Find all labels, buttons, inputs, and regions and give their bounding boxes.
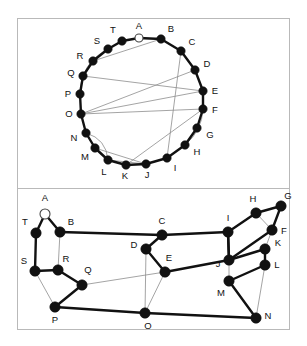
- circle-vertex-label-T: T: [110, 24, 116, 35]
- circle-vertex-label-Q: Q: [67, 67, 74, 78]
- circle-vertex-label-E: E: [212, 85, 218, 96]
- circle-vertex-label-C: C: [189, 36, 196, 47]
- planar-vertex-L[interactable]: [260, 260, 270, 270]
- planar-vertex-F[interactable]: [267, 225, 277, 235]
- planar-vertex-O[interactable]: [140, 308, 150, 318]
- circle-vertex-O[interactable]: [77, 110, 85, 118]
- planar-vertex-label-M: M: [217, 287, 225, 298]
- circle-vertex-label-D: D: [204, 58, 211, 69]
- circle-vertex-T[interactable]: [118, 37, 126, 45]
- planar-vertex-B[interactable]: [55, 227, 65, 237]
- planar-vertex-label-F: F: [281, 225, 287, 236]
- planar-vertex-I[interactable]: [223, 227, 233, 237]
- circle-vertex-label-O: O: [65, 108, 72, 119]
- circle-vertex-label-R: R: [77, 50, 84, 61]
- planar-vertex-label-R: R: [63, 253, 70, 264]
- planar-vertex-E[interactable]: [160, 267, 170, 277]
- planar-vertex-label-A: A: [42, 192, 49, 203]
- planar-vertex-A[interactable]: [40, 209, 50, 219]
- planar-vertex-label-C: C: [159, 215, 166, 226]
- planar-vertex-label-G: G: [284, 190, 291, 201]
- circle-vertex-G[interactable]: [193, 124, 201, 132]
- planar-vertex-label-K: K: [275, 237, 282, 248]
- circle-vertex-B[interactable]: [157, 35, 165, 43]
- planar-vertex-label-S: S: [21, 255, 27, 266]
- circle-vertex-K[interactable]: [122, 161, 130, 169]
- planar-vertex-label-D: D: [131, 239, 138, 250]
- planar-vertex-D[interactable]: [141, 244, 151, 254]
- circle-vertex-label-M: M: [81, 151, 89, 162]
- circle-vertex-label-N: N: [71, 132, 78, 143]
- graph-figure-svg: ABCDEFGHIJKLMNOPQRST ABCDEFGHIJKLMNOPQRS…: [0, 0, 307, 346]
- planar-vertex-M[interactable]: [224, 276, 234, 286]
- circle-vertex-label-A: A: [136, 20, 143, 31]
- planar-vertex-label-J: J: [216, 258, 221, 269]
- figure-root: ABCDEFGHIJKLMNOPQRST ABCDEFGHIJKLMNOPQRS…: [0, 0, 307, 346]
- planar-vertex-label-I: I: [227, 212, 230, 223]
- circle-vertex-I[interactable]: [163, 154, 171, 162]
- circle-vertex-M[interactable]: [91, 144, 99, 152]
- circle-vertex-label-H: H: [194, 146, 201, 157]
- planar-vertex-J[interactable]: [224, 255, 234, 265]
- planar-vertex-label-E: E: [166, 252, 172, 263]
- circle-vertex-N[interactable]: [82, 129, 90, 137]
- circle-vertex-J[interactable]: [142, 160, 150, 168]
- circle-vertex-label-I: I: [174, 162, 177, 173]
- circle-vertex-label-L: L: [101, 166, 106, 177]
- circle-vertex-C[interactable]: [177, 47, 185, 55]
- planar-vertex-label-B: B: [68, 216, 74, 227]
- circle-vertex-label-S: S: [94, 35, 100, 46]
- circle-vertex-S[interactable]: [104, 45, 112, 53]
- planar-vertex-G[interactable]: [276, 201, 286, 211]
- planar-vertex-R[interactable]: [53, 265, 63, 275]
- circle-vertex-label-K: K: [122, 170, 129, 181]
- figure-frame: [18, 19, 290, 330]
- circle-vertex-E[interactable]: [199, 87, 207, 95]
- circle-vertex-R[interactable]: [89, 57, 97, 65]
- planar-vertex-label-N: N: [265, 310, 272, 321]
- planar-edge-TS: [35, 233, 36, 271]
- planar-vertex-label-L: L: [274, 259, 279, 270]
- circle-vertex-label-G: G: [206, 129, 213, 140]
- planar-vertex-label-P: P: [52, 314, 58, 325]
- planar-vertex-label-H: H: [250, 193, 257, 204]
- planar-vertex-label-O: O: [144, 320, 151, 331]
- circle-vertex-Q[interactable]: [79, 72, 87, 80]
- planar-vertex-Q[interactable]: [77, 280, 87, 290]
- circle-vertex-D[interactable]: [191, 66, 199, 74]
- circle-vertex-label-B: B: [168, 23, 174, 34]
- planar-vertex-C[interactable]: [157, 230, 167, 240]
- planar-vertex-N[interactable]: [251, 313, 261, 323]
- planar-vertex-label-T: T: [22, 216, 28, 227]
- circle-vertex-label-J: J: [145, 169, 150, 180]
- circle-vertex-P[interactable]: [76, 90, 84, 98]
- circle-vertex-H[interactable]: [181, 141, 189, 149]
- planar-vertex-S[interactable]: [30, 266, 40, 276]
- circle-vertex-A[interactable]: [135, 34, 143, 42]
- circle-vertex-label-F: F: [212, 104, 218, 115]
- planar-vertex-T[interactable]: [31, 228, 41, 238]
- planar-vertex-P[interactable]: [50, 302, 60, 312]
- planar-vertex-K[interactable]: [260, 244, 270, 254]
- planar-vertex-H[interactable]: [251, 208, 261, 218]
- circle-vertex-F[interactable]: [199, 105, 207, 113]
- circle-vertex-L[interactable]: [104, 156, 112, 164]
- planar-vertex-label-Q: Q: [84, 264, 91, 275]
- circle-vertex-label-P: P: [65, 88, 71, 99]
